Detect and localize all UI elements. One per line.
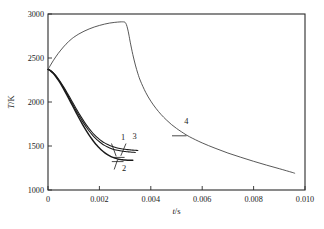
chart-figure: 00.0020.0040.0060.0080.010 1000150020002… (0, 0, 324, 229)
temperature-time-plot: 00.0020.0040.0060.0080.010 1000150020002… (0, 0, 324, 229)
x-tick-label: 0.008 (244, 195, 262, 204)
y-tick-label: 2000 (28, 98, 44, 107)
y-tick-label: 1500 (28, 142, 44, 151)
x-tick-label: 0.010 (296, 195, 314, 204)
x-axis-title: t/s (172, 206, 181, 216)
y-tick-label: 1000 (28, 186, 44, 195)
curve-label-3: 3 (133, 132, 137, 141)
curve-label-1: 1 (121, 133, 125, 142)
curve-label-2: 2 (122, 164, 126, 173)
y-tick-label: 3000 (28, 10, 44, 19)
y-axis-title-unit: /K (6, 95, 16, 104)
x-tick-label: 0.002 (90, 195, 108, 204)
x-axis-title-unit: /s (175, 206, 181, 216)
x-tick-label: 0.004 (142, 195, 160, 204)
y-axis-title: T/K (6, 95, 16, 109)
x-tick-label: 0.006 (193, 195, 211, 204)
y-tick-label: 2500 (28, 54, 44, 63)
x-tick-label: 0 (46, 195, 50, 204)
